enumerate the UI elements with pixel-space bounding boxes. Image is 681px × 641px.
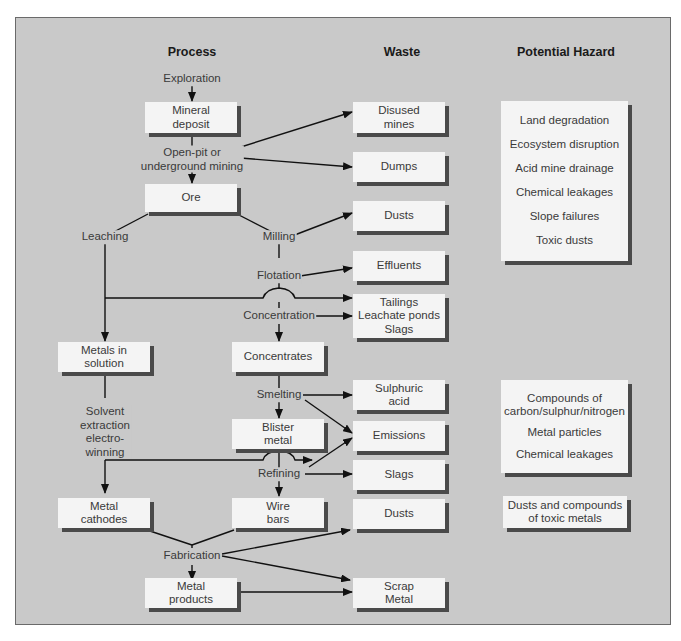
box-concentrates: Concentrates bbox=[232, 342, 324, 372]
label-fabrication: Fabrication bbox=[163, 549, 222, 563]
connector-lines bbox=[0, 0, 681, 641]
box-slags: Slags bbox=[353, 460, 445, 490]
box-scrap-metal: Scrap Metal bbox=[353, 578, 445, 608]
box-dumps: Dumps bbox=[353, 152, 445, 182]
label-exploration: Exploration bbox=[162, 72, 222, 86]
box-hazards-mining: Land degradation Ecosystem disruption Ac… bbox=[501, 101, 628, 261]
label-leaching: Leaching bbox=[81, 230, 130, 244]
label-mining: Open-pit or underground mining bbox=[140, 146, 244, 173]
box-hazards-fabrication: Dusts and compounds of toxic metals bbox=[503, 496, 627, 528]
box-disused-mines: Disused mines bbox=[353, 102, 445, 133]
label-concentration: Concentration bbox=[242, 309, 316, 323]
box-sulphuric-acid: Sulphuric acid bbox=[353, 380, 445, 410]
box-ore: Ore bbox=[145, 184, 237, 212]
hazard-item: Chemical leakages bbox=[516, 186, 613, 200]
hazard-item: Acid mine drainage bbox=[515, 162, 613, 176]
box-blister-metal: Blister metal bbox=[232, 419, 324, 449]
box-wire-bars: Wire bars bbox=[232, 498, 324, 528]
hazard-item: Compounds of carbon/sulphur/nitrogen bbox=[504, 392, 625, 419]
hazard-item: Slope failures bbox=[530, 210, 600, 224]
box-emissions: Emissions bbox=[353, 421, 445, 451]
box-mineral-deposit: Mineral deposit bbox=[145, 102, 237, 133]
label-smelting: Smelting bbox=[256, 388, 303, 402]
label-refining: Refining bbox=[257, 467, 301, 481]
box-tailings-leachate-slags: Tailings Leachate ponds Slags bbox=[353, 294, 445, 338]
box-dusts-2: Dusts bbox=[353, 499, 445, 529]
hazard-item: Chemical leakages bbox=[516, 448, 613, 462]
box-dusts-1: Dusts bbox=[353, 201, 445, 231]
label-solvent-extraction: Solvent extraction electro- winning bbox=[79, 405, 131, 459]
hazard-item: Ecosystem disruption bbox=[510, 138, 619, 152]
hazard-item: Metal particles bbox=[527, 426, 601, 440]
hazard-item: Toxic dusts bbox=[536, 234, 593, 248]
box-effluents: Effluents bbox=[353, 251, 445, 281]
box-metal-cathodes: Metal cathodes bbox=[58, 498, 150, 528]
hazard-item: Land degradation bbox=[520, 114, 610, 128]
label-milling: Milling bbox=[262, 230, 297, 244]
label-flotation: Flotation bbox=[256, 269, 302, 283]
box-hazards-smelting: Compounds of carbon/sulphur/nitrogen Met… bbox=[501, 380, 628, 473]
box-metal-products: Metal products bbox=[145, 578, 237, 608]
box-metals-in-solution: Metals in solution bbox=[58, 342, 150, 372]
